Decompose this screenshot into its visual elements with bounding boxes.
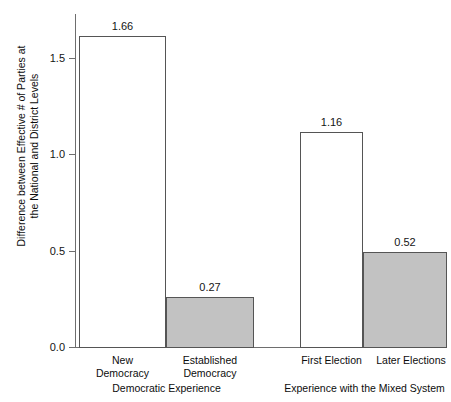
x-category-label-line: Democracy: [166, 367, 254, 380]
bar-value-later-elections: 0.52: [363, 237, 447, 248]
x-group-label-mixed-system-experience: Experience with the Mixed System: [278, 382, 451, 395]
bar-later-elections: [363, 252, 447, 348]
x-category-label-line: Later Elections: [371, 354, 451, 367]
y-axis-title-line-1: Difference between Effective # of Partie…: [15, 46, 29, 247]
y-tick-label-3: 1.5: [35, 53, 65, 64]
x-category-label-new-democracy: New Democracy: [79, 354, 166, 380]
x-category-label-line: Democracy: [79, 367, 166, 380]
x-category-label-line: First Election: [293, 354, 370, 367]
y-tick-label-1: 0.5: [35, 246, 65, 257]
y-tick-2: [69, 154, 75, 155]
x-category-label-line: Established: [166, 354, 254, 367]
y-axis-title-line-2: the National and District Levels: [28, 74, 42, 219]
x-group-label-democratic-experience: Democratic Experience: [74, 382, 259, 395]
x-category-label-later-elections: Later Elections: [371, 354, 451, 367]
y-tick-label-1-host: 0.5: [33, 246, 65, 257]
y-tick-1: [69, 251, 75, 252]
x-category-label-line: New: [79, 354, 166, 367]
x-category-label-established-democracy: Established Democracy: [166, 354, 254, 380]
y-tick-label-2-host: 1.0: [33, 149, 65, 160]
x-category-label-first-election: First Election: [293, 354, 370, 367]
y-tick-3: [69, 58, 75, 59]
bar-value-new-democracy: 1.66: [79, 21, 166, 32]
y-tick-label-3-host: 1.5: [33, 53, 65, 64]
bar-chart: Difference between Effective # of Partie…: [0, 0, 451, 402]
bar-value-established-democracy: 0.27: [166, 282, 254, 293]
bar-value-first-election: 1.16: [300, 117, 363, 128]
y-tick-label-2: 1.0: [35, 149, 65, 160]
y-tick-0: [69, 347, 75, 348]
y-tick-label-0-host: 0.0: [33, 342, 65, 353]
y-axis-line: [75, 14, 76, 348]
bar-established-democracy: [166, 297, 254, 348]
bar-new-democracy: [79, 36, 166, 348]
y-tick-label-0: 0.0: [35, 342, 65, 353]
bar-first-election: [300, 132, 363, 348]
